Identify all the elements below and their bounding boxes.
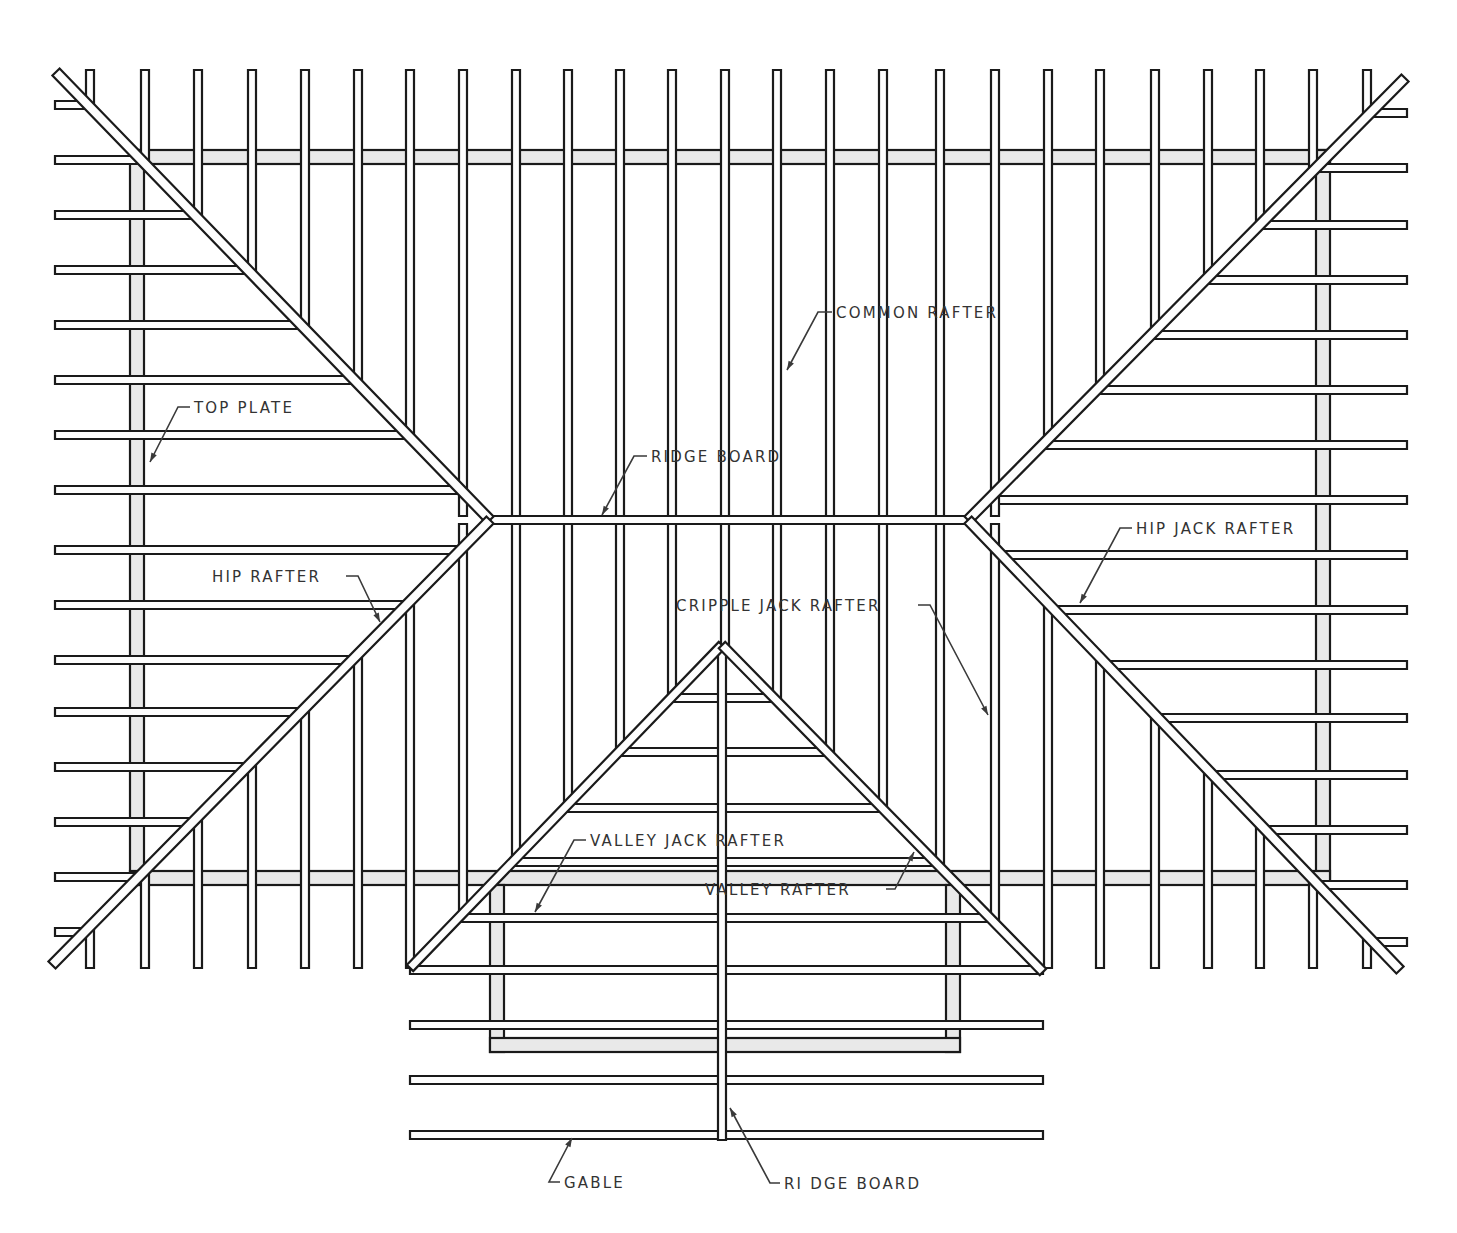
hip-jack-rafter: [1044, 441, 1407, 449]
callout-gable: GABLE: [549, 1138, 625, 1192]
hip-jack-rafter: [55, 321, 299, 329]
label-hip-jack-rafter: HIP JACK RAFTER: [1136, 520, 1295, 538]
hip-jack-rafter: [55, 431, 406, 439]
cripple-jack-rafter: [936, 524, 944, 865]
top-plate-west: [130, 150, 144, 885]
common-rafter: [406, 70, 414, 435]
hip-jack-rafter: [1099, 386, 1407, 394]
hip-jack-rafter: [1309, 881, 1317, 968]
hip-jack-rafter: [1262, 221, 1407, 229]
hip-jack-rafter: [354, 656, 362, 968]
common-rafter: [991, 70, 999, 516]
common-rafter: [616, 70, 624, 516]
hip-jack-rafter: [194, 70, 202, 217]
arrowhead-icon: [150, 453, 157, 462]
hip-jack-rafter: [1256, 70, 1264, 223]
hip-jack-rafter: [1318, 164, 1407, 172]
common-rafter: [879, 70, 887, 516]
callout-hip-rafter: HIP RAFTER: [212, 568, 380, 622]
cripple-jack-rafter: [668, 524, 676, 695]
hip-jack-rafter: [1109, 661, 1407, 669]
hip-jack-rafter: [55, 546, 458, 554]
hip-rafter: [964, 517, 1403, 974]
hip-jack-rafter: [1151, 70, 1159, 329]
hip-jack-rafter: [1004, 551, 1407, 559]
common-rafter: [1044, 605, 1052, 968]
hip-jack-rafter: [248, 764, 256, 968]
hip-jack-rafter: [1256, 826, 1264, 968]
hip-jack-rafter: [990, 496, 1407, 504]
label-hip-rafter: HIP RAFTER: [212, 568, 321, 586]
label-valley-rafter: VALLEY RAFTER: [705, 881, 851, 899]
arrowhead-icon: [602, 506, 609, 515]
arrowhead-icon: [1080, 594, 1087, 603]
hip-jack-rafter: [141, 873, 149, 968]
cripple-jack-rafter: [459, 524, 467, 911]
common-rafter: [826, 70, 834, 516]
arrowhead-icon: [730, 1108, 737, 1117]
arrowhead-icon: [535, 903, 542, 912]
cripple-jack-rafter: [616, 524, 624, 749]
label-ridge-board-gable: RI DGE BOARD: [784, 1175, 921, 1193]
arrowhead-icon: [787, 361, 794, 370]
label-cripple-jack-rafter: CRIPPLE JACK RAFTER: [676, 597, 881, 615]
hip-jack-rafter: [55, 818, 191, 826]
hip-jack-rafter: [1096, 660, 1104, 969]
common-rafter: [1044, 70, 1052, 437]
hip-jack-rafter: [301, 710, 309, 968]
arrowhead-icon: [981, 706, 988, 715]
label-ridge-board-main: RIDGE BOARD: [651, 448, 781, 466]
hip-jack-rafter: [354, 70, 362, 382]
common-rafter: [512, 70, 520, 516]
callout-common-rafter: COMMON RAFTER: [787, 304, 998, 370]
hip-jack-rafter: [1096, 70, 1104, 384]
callout-hip-jack-rafter: HIP JACK RAFTER: [1080, 520, 1295, 603]
label-valley-jack-rafter: VALLEY JACK RAFTER: [590, 832, 786, 850]
hip-jack-rafter: [1309, 70, 1317, 169]
hip-jack-rafter: [1320, 881, 1407, 889]
label-gable: GABLE: [564, 1174, 625, 1192]
hip-jack-rafter: [248, 70, 256, 272]
hip-jack-rafter: [55, 601, 404, 609]
leader-line: [730, 1108, 780, 1183]
hip-jack-rafter: [194, 819, 202, 968]
hip-jack-rafter: [1151, 717, 1159, 968]
hip-jack-rafter: [1207, 276, 1407, 284]
hip-jack-rafter: [1160, 714, 1407, 722]
hip-jack-rafter: [55, 763, 245, 771]
hip-jack-rafter: [55, 156, 139, 164]
cripple-jack-rafter: [991, 524, 999, 921]
roof-framing-diagram: COMMON RAFTERTOP PLATERIDGE BOARDHIP RAF…: [0, 0, 1457, 1233]
common-rafter: [406, 603, 414, 968]
cripple-jack-rafter: [512, 524, 520, 856]
callout-ridge-board-main: RIDGE BOARD: [602, 448, 781, 515]
hip-jack-rafter: [55, 486, 459, 494]
hip-rafter: [52, 69, 493, 524]
label-common-rafter: COMMON RAFTER: [836, 304, 998, 322]
hip-jack-rafter: [55, 266, 246, 274]
hip-rafter: [964, 74, 1408, 523]
hip-jack-rafter: [55, 656, 350, 664]
hip-jack-rafter: [1268, 826, 1407, 834]
common-rafter: [721, 524, 729, 645]
common-rafter: [936, 70, 944, 516]
cripple-jack-rafter: [826, 524, 834, 753]
hip-jack-rafter: [1204, 772, 1212, 968]
arrowhead-icon: [373, 613, 380, 622]
cripple-jack-rafter: [879, 524, 887, 807]
hip-jack-rafter: [55, 211, 193, 219]
common-rafter: [564, 70, 572, 516]
hip-jack-rafter: [1056, 606, 1407, 614]
hip-jack-rafter: [301, 70, 309, 327]
hip-jack-rafter: [141, 70, 149, 162]
hip-jack-rafter: [55, 873, 137, 881]
hip-jack-rafter: [55, 376, 352, 384]
callout-ridge-board-gable: RI DGE BOARD: [730, 1108, 921, 1193]
label-top-plate: TOP PLATE: [193, 399, 294, 417]
leader-line: [1080, 528, 1132, 603]
hip-jack-rafter: [55, 708, 299, 716]
ridge-board: [490, 516, 968, 524]
hip-jack-rafter: [1204, 70, 1212, 275]
hip-jack-rafter: [1153, 331, 1407, 339]
hip-jack-rafter: [1215, 771, 1407, 779]
